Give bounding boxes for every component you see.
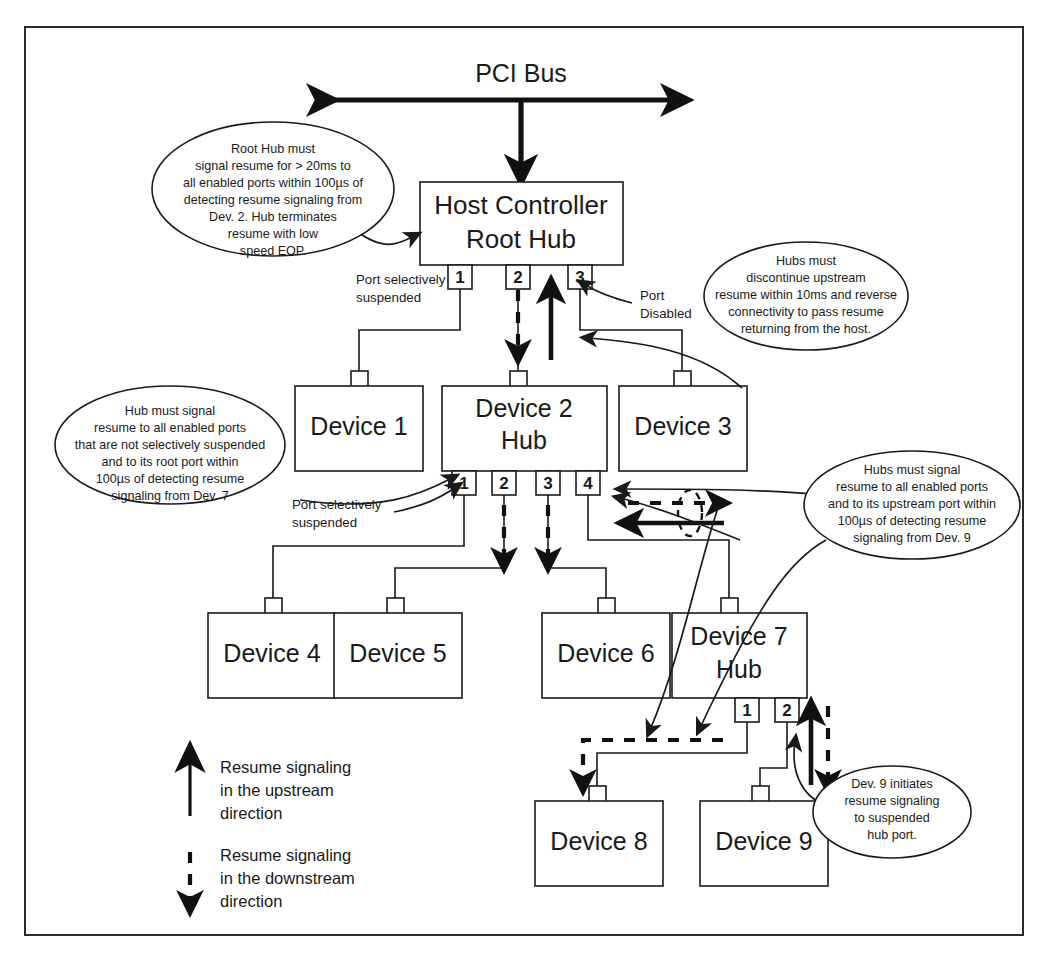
legend-upstream-line-1: in the upstream <box>220 781 334 799</box>
device-6-group: Device 6 <box>542 598 670 698</box>
host-controller-line2: Root Hub <box>466 224 576 254</box>
device-3-group: Device 3 <box>619 371 747 471</box>
host-controller-group: Host Controller Root Hub 1 2 3 <box>420 182 623 289</box>
device-6-label: Device 6 <box>557 639 654 667</box>
cable-d2port3-device6 <box>548 495 606 598</box>
device-1-group: Device 1 <box>295 371 423 471</box>
device-2-port-1-label: 1 <box>459 474 468 493</box>
callout-hubs-signal-dev9-line-0: Hubs must signal <box>864 463 961 477</box>
reverse-connectivity-marker-icon <box>678 490 702 536</box>
legend-downstream-line-1: in the downstream <box>220 869 355 887</box>
cable-root-port3-device3 <box>580 289 682 371</box>
device-7-cabling <box>597 722 787 786</box>
device-2-group: Device 2 Hub <box>442 371 607 471</box>
device-7-hub-ports: 1 2 <box>735 698 799 722</box>
root-hub-port-3-label: 3 <box>575 268 584 287</box>
device-8-label: Device 8 <box>550 827 647 855</box>
callout-root-hub-line-6: speed EOP. <box>240 244 306 258</box>
device-2-port-2-label: 2 <box>499 474 508 493</box>
callout-hubs-discontinue: Hubs must discontinue upstream resume wi… <box>704 242 908 350</box>
callout-hub-signal-dev7: Hub must signal resume to all enabled po… <box>55 386 285 504</box>
leader-hubs-signal-to-d2port4 <box>622 489 822 495</box>
callout-root-hub-line-2: all enabled ports within 100µs of <box>183 176 364 190</box>
legend-upstream-line-0: Resume signaling <box>220 758 351 776</box>
annotation-port-disabled: Port Disabled <box>640 288 692 321</box>
legend-upstream-line-2: direction <box>220 804 282 822</box>
callout-hubs-discontinue-line-2: resume within 10ms and reverse <box>715 288 897 302</box>
callout-dev9-initiates-line-0: Dev. 9 initiates <box>851 777 933 791</box>
callout-hubs-discontinue-line-0: Hubs must <box>776 254 837 268</box>
annotation-hub2-port-suspended: Port selectively suspended <box>292 497 382 530</box>
callout-hubs-discontinue-line-4: returning from the host. <box>741 322 871 336</box>
legend-downstream-line-0: Resume signaling <box>220 846 351 864</box>
device-7-port-2-label: 2 <box>782 701 791 720</box>
callout-hub-signal-dev7-line-0: Hub must signal <box>125 404 215 418</box>
callout-hub-signal-dev7-line-3: and to its root port within <box>101 455 238 469</box>
device-9-label: Device 9 <box>715 827 812 855</box>
callout-hubs-signal-dev9-line-4: signaling from Dev. 9 <box>853 531 970 545</box>
device-5-group: Device 5 <box>334 598 462 698</box>
arrow-downstream-device8 <box>583 740 723 782</box>
device-4-label: Device 4 <box>223 639 320 667</box>
callout-hub-signal-dev7-line-1: resume to all enabled ports <box>94 421 246 435</box>
annotation-hub2-port-suspended-line2: suspended <box>292 515 357 530</box>
cable-d2port4-device7 <box>588 495 729 598</box>
callout-dev9-initiates: Dev. 9 initiates resume signaling to sus… <box>813 766 971 858</box>
callout-hubs-signal-dev9: Hubs must signal resume to all enabled p… <box>804 451 1020 559</box>
device-8-group: Device 8 <box>535 786 663 886</box>
callout-root-hub-line-1: signal resume for > 20ms to <box>195 159 351 173</box>
device-7-label-line1: Device 7 <box>690 622 787 650</box>
usb-resume-signaling-diagram: PCI Bus Host Controller Root Hub 1 2 3 D… <box>0 0 1047 966</box>
callout-dev9-initiates-line-3: hub port. <box>867 828 917 842</box>
device-1-label: Device 1 <box>310 412 407 440</box>
callout-root-hub-line-5: resume with low <box>228 227 319 241</box>
annotation-root-port-suspended-line1: Port selectively <box>356 272 446 287</box>
device-9-group: Device 9 <box>700 786 828 886</box>
device-3-label: Device 3 <box>634 412 731 440</box>
callout-root-hub-line-3: detecting resume signaling from <box>184 193 363 207</box>
callout-hub-signal-dev7-line-2: that are not selectively suspended <box>75 438 265 452</box>
callout-dev9-initiates-line-1: resume signaling <box>844 794 939 808</box>
callout-hub-signal-dev7-line-5: signaling from Dev. 7 <box>111 489 228 503</box>
cable-d7port2-device9 <box>760 722 787 786</box>
legend-downstream-line-2: direction <box>220 892 282 910</box>
legend: Resume signaling in the upstream directi… <box>190 757 355 910</box>
device-2-label-line2: Hub <box>501 426 547 454</box>
callout-dev9-initiates-line-2: to suspended <box>854 811 930 825</box>
annotation-root-port-suspended: Port selectively suspended <box>356 272 446 305</box>
device-2-label-line1: Device 2 <box>475 394 572 422</box>
callout-root-hub-line-0: Root Hub must <box>231 142 315 156</box>
leader-discontinue-to-port3 <box>588 338 742 388</box>
callout-hubs-discontinue-line-1: discontinue upstream <box>746 271 866 285</box>
pci-bus-label: PCI Bus <box>475 59 567 87</box>
device-2-port-3-label: 3 <box>543 474 552 493</box>
annotation-hub2-port-suspended-line1: Port selectively <box>292 497 382 512</box>
callout-root-hub-line-4: Dev. 2. Hub terminates <box>209 210 337 224</box>
host-controller-line1: Host Controller <box>434 190 608 220</box>
annotation-root-port-suspended-line2: suspended <box>356 290 421 305</box>
root-hub-port-1-label: 1 <box>455 268 464 287</box>
device-4-group: Device 4 <box>208 598 336 698</box>
legend-upstream: Resume signaling in the upstream directi… <box>190 757 351 822</box>
device-5-label: Device 5 <box>349 639 446 667</box>
callout-hubs-signal-dev9-line-1: resume to all enabled ports <box>836 480 988 494</box>
callout-hubs-discontinue-line-3: connectivity to pass resume <box>728 305 883 319</box>
device-2-hub-ports: 1 2 3 4 <box>452 471 600 495</box>
cable-d7port1-device8 <box>597 722 747 786</box>
callout-hubs-signal-dev9-line-3: 100µs of detecting resume <box>838 514 987 528</box>
callout-root-hub: Root Hub must signal resume for > 20ms t… <box>152 122 394 258</box>
callout-hub-signal-dev7-line-4: 100µs of detecting resume <box>96 472 245 486</box>
root-hub-port-2-label: 2 <box>513 268 522 287</box>
annotation-port-disabled-line1: Port <box>640 288 665 303</box>
callout-hubs-signal-dev9-line-2: and to its upstream port within <box>828 497 996 511</box>
device-7-port-1-label: 1 <box>742 701 751 720</box>
annotation-port-disabled-line2: Disabled <box>640 306 692 321</box>
legend-downstream: Resume signaling in the downstream direc… <box>190 846 355 910</box>
device-2-port-4-label: 4 <box>583 474 593 493</box>
